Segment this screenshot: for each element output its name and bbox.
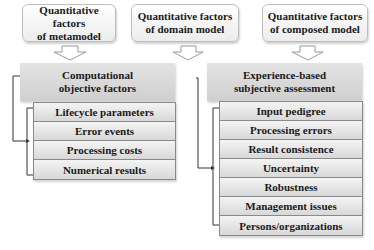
list-item: Result consistence xyxy=(220,140,362,159)
list-item: Processing errors xyxy=(220,121,362,140)
list-item: Processing costs xyxy=(34,141,175,160)
down-arrow-icon xyxy=(292,46,323,60)
list-item: Uncertainty xyxy=(220,159,362,178)
down-arrow-icon xyxy=(54,46,86,60)
header-line1: Experience-based xyxy=(243,69,326,82)
subjective-assessment-list: Input pedigree Processing errors Result … xyxy=(219,101,363,236)
list-item: Lifecycle parameters xyxy=(34,103,175,122)
header-line2: objective factors xyxy=(59,82,136,95)
header-line2: subjective assessment xyxy=(234,82,335,95)
list-item: Robustness xyxy=(220,178,362,197)
list-item: Numerical results xyxy=(34,160,175,179)
list-item: Persons/organizations xyxy=(220,216,362,235)
computational-objective-factors-header: Computational objective factors xyxy=(20,63,175,101)
list-item: Error events xyxy=(34,122,175,141)
list-item: Management issues xyxy=(220,197,362,216)
list-item: Input pedigree xyxy=(220,102,362,121)
experience-based-assessment-header: Experience-based subjective assessment xyxy=(207,63,362,101)
header-line1: Computational xyxy=(62,69,133,82)
objective-factors-list: Lifecycle parameters Error events Proces… xyxy=(33,102,176,180)
down-arrow-icon xyxy=(173,46,203,60)
